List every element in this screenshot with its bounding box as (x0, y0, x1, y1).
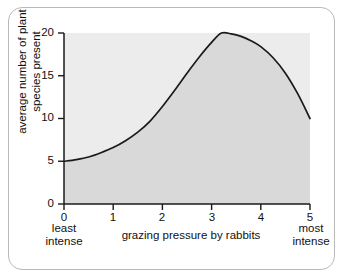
x-axis-left-note-line-2: intense (37, 235, 91, 248)
x-axis-ticks (64, 204, 310, 210)
x-axis-right-note-line-1: most (284, 222, 338, 235)
x-tick-label-2: 2 (152, 211, 172, 223)
y-axis-ticks (58, 33, 64, 204)
x-axis-right-note: most intense (284, 222, 338, 248)
x-axis-title: grazing pressure by rabbits (96, 229, 286, 241)
y-tick-label-5: 5 (32, 154, 54, 166)
x-axis-right-note-line-2: intense (284, 235, 338, 248)
x-tick-label-3: 3 (202, 211, 222, 223)
y-tick-label-0: 0 (32, 197, 54, 209)
y-axis-title-line-1: average number of plant (16, 0, 30, 147)
x-tick-label-1: 1 (103, 211, 123, 223)
y-axis-title-line-2: species present (29, 0, 43, 147)
y-axis-title: average number of plant species present (16, 0, 43, 147)
chart-figure: 0 5 10 15 20 0 1 2 3 4 5 average number … (0, 0, 343, 278)
x-axis-left-note: least intense (37, 222, 91, 248)
x-axis-left-note-line-1: least (37, 222, 91, 235)
x-tick-label-4: 4 (251, 211, 271, 223)
